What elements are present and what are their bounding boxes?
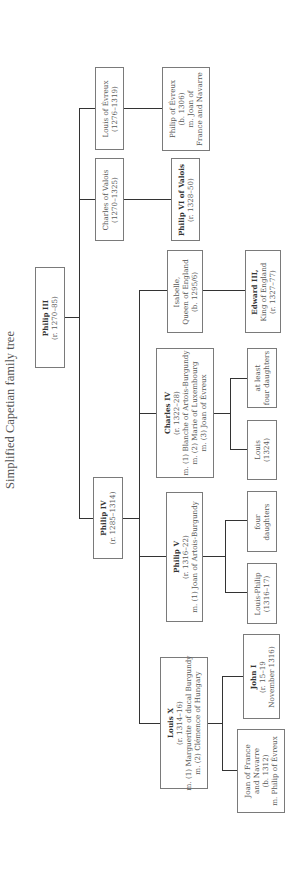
connector <box>139 290 167 291</box>
connector <box>230 378 231 450</box>
person-at-least-four-daughters: at leastfour daughters <box>247 348 277 408</box>
connector <box>139 413 156 414</box>
connector <box>222 770 237 771</box>
connector <box>207 723 222 724</box>
connector <box>123 518 139 519</box>
connector <box>225 520 226 593</box>
person-louis-philip: Louis-Philip(1316–17) <box>247 563 277 624</box>
person-edward-iii: Edward III,King of England(r. 1327–77) <box>245 250 281 333</box>
person-louis-1324: Louis(1324) <box>247 420 277 480</box>
person-philip-vi: Philip VI of Valois(r. 1328–50) <box>171 158 200 241</box>
connector <box>124 108 162 109</box>
trunk-philip-iv-children <box>139 290 140 724</box>
connector <box>214 413 230 414</box>
connector <box>230 449 247 450</box>
connector <box>79 108 95 109</box>
person-philip-iii: Philip III(r. 1270–85) <box>35 267 65 368</box>
person-john-i: John I(r. 15–19November 1316) <box>243 634 280 719</box>
connector <box>225 520 247 521</box>
connector <box>79 518 93 519</box>
connector <box>222 676 243 677</box>
person-philip-of-evreux: Philip of Évreux(b. 1306)m. Joan ofFranc… <box>162 67 210 151</box>
connector <box>222 676 223 771</box>
connector <box>230 378 247 379</box>
person-philip-v: Philip V(r. 1316–22)m. (1) Joan of Artoi… <box>166 492 203 622</box>
diagram-title: Simplified Capetian family tree <box>3 331 18 489</box>
connector <box>124 199 171 200</box>
connector <box>139 556 166 557</box>
person-joan-of-france-and-navarre: Joan of Franceand Navarre(b. 1312)m. Phi… <box>237 729 285 813</box>
person-philip-iv: Philip IV(r. 1285–1314) <box>93 477 123 559</box>
connector <box>79 199 95 200</box>
person-louis-of-evreux: Louis of Évreux(1276–1319) <box>95 67 124 150</box>
person-charles-iv: Charles IV(r. 1322–28)m. (1) Blanche of … <box>156 348 214 478</box>
person-charles-of-valois: Charles of Valois(1270–1325) <box>95 158 124 241</box>
trunk-philip-iii-children <box>79 108 80 519</box>
connector <box>139 723 160 724</box>
connector <box>203 290 245 291</box>
person-four-daughters: fourdaughters <box>247 491 277 552</box>
person-louis-x: Louis X(r. 1314–16)m. (1) Marguerite of … <box>160 657 208 789</box>
connector <box>65 317 79 318</box>
person-isabelle: Isabelle,Queen of England(b. 1295/6) <box>167 250 203 333</box>
connector <box>203 556 225 557</box>
connector <box>225 592 247 593</box>
